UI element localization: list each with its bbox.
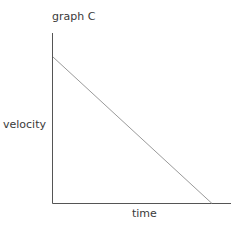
x-axis-label: time: [132, 207, 157, 220]
chart-plot-area: [0, 0, 245, 233]
velocity-line: [53, 57, 212, 204]
y-axis-label: velocity: [3, 118, 46, 131]
